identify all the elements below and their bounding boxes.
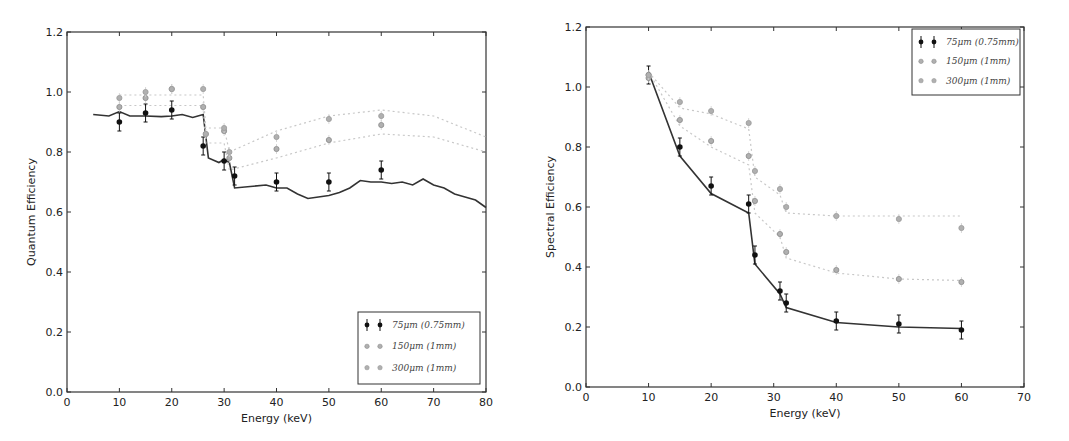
data-point bbox=[896, 321, 902, 327]
x-tick-label: 70 bbox=[1017, 391, 1031, 404]
y-tick-label: 0.6 bbox=[565, 201, 583, 214]
legend-entry: 150μm (1mm) bbox=[946, 56, 1011, 66]
y-tick-label: 0.0 bbox=[565, 381, 583, 394]
data-point bbox=[117, 104, 122, 109]
data-point bbox=[677, 99, 682, 104]
y-tick-label: 0.2 bbox=[46, 326, 64, 339]
y-tick-label: 1.2 bbox=[46, 26, 64, 39]
data-point bbox=[227, 149, 232, 154]
data-point bbox=[221, 158, 227, 164]
data-point bbox=[746, 153, 751, 158]
data-point bbox=[677, 144, 683, 150]
data-point bbox=[169, 107, 175, 113]
data-point bbox=[709, 138, 714, 143]
data-point bbox=[274, 179, 280, 185]
chart-panel-2: 0102030405060700.00.20.40.60.81.01.2Ener… bbox=[544, 21, 1031, 420]
y-tick-label: 0.4 bbox=[46, 266, 64, 279]
data-point bbox=[143, 89, 148, 94]
legend-entry: 75μm (0.75mm) bbox=[946, 37, 1019, 47]
x-tick-label: 20 bbox=[165, 396, 179, 409]
legend-entry: 75μm (0.75mm) bbox=[392, 320, 465, 330]
data-point bbox=[752, 252, 758, 258]
legend-entry: 300μm (1mm) bbox=[946, 76, 1011, 86]
x-tick-label: 30 bbox=[767, 391, 781, 404]
y-tick-label: 0.2 bbox=[565, 321, 583, 334]
data-point bbox=[746, 201, 752, 207]
figure: 010203040506070800.00.20.40.60.81.01.2En… bbox=[0, 0, 1069, 441]
x-tick-label: 40 bbox=[829, 391, 843, 404]
x-tick-label: 80 bbox=[479, 396, 493, 409]
data-point bbox=[834, 213, 839, 218]
data-point bbox=[708, 183, 714, 189]
data-point bbox=[959, 225, 964, 230]
x-axis-label: Energy (keV) bbox=[241, 412, 312, 425]
data-point bbox=[201, 104, 206, 109]
y-tick-label: 0.6 bbox=[46, 206, 64, 219]
chart-panel-1: 010203040506070800.00.20.40.60.81.01.2En… bbox=[25, 26, 493, 425]
legend-entry: 300μm (1mm) bbox=[392, 363, 457, 373]
x-tick-label: 60 bbox=[374, 396, 388, 409]
data-point bbox=[232, 173, 238, 179]
x-axis-label: Energy (keV) bbox=[770, 407, 841, 420]
y-tick-label: 0.8 bbox=[46, 146, 64, 159]
data-point bbox=[379, 113, 384, 118]
y-tick-label: 1.2 bbox=[565, 21, 583, 34]
legend: 75μm (0.75mm)150μm (1mm)300μm (1mm) bbox=[912, 29, 1020, 95]
x-tick-label: 50 bbox=[892, 391, 906, 404]
y-axis-label: Quantum Efficiency bbox=[25, 158, 38, 266]
data-point bbox=[203, 131, 208, 136]
data-point bbox=[783, 300, 789, 306]
data-point bbox=[378, 167, 384, 173]
x-tick-label: 0 bbox=[64, 396, 71, 409]
x-tick-label: 50 bbox=[322, 396, 336, 409]
x-tick-label: 0 bbox=[583, 391, 590, 404]
data-point bbox=[143, 110, 149, 116]
data-point bbox=[896, 276, 901, 281]
data-point bbox=[274, 134, 279, 139]
data-point bbox=[709, 108, 714, 113]
data-point bbox=[959, 279, 964, 284]
data-point bbox=[777, 231, 782, 236]
y-tick-label: 0.8 bbox=[565, 141, 583, 154]
x-tick-label: 10 bbox=[112, 396, 126, 409]
data-point bbox=[117, 95, 122, 100]
x-tick-label: 40 bbox=[270, 396, 284, 409]
x-tick-label: 70 bbox=[427, 396, 441, 409]
data-point bbox=[326, 179, 332, 185]
legend: 75μm (0.75mm)150μm (1mm)300μm (1mm) bbox=[358, 312, 480, 384]
data-point bbox=[201, 86, 206, 91]
data-point bbox=[896, 216, 901, 221]
data-point bbox=[646, 72, 651, 77]
data-point bbox=[959, 327, 965, 333]
x-tick-label: 10 bbox=[642, 391, 656, 404]
data-point bbox=[784, 204, 789, 209]
data-point bbox=[833, 318, 839, 324]
x-tick-label: 60 bbox=[954, 391, 968, 404]
data-point bbox=[326, 116, 331, 121]
y-tick-label: 0.0 bbox=[46, 386, 64, 399]
data-point bbox=[222, 125, 227, 130]
x-tick-label: 30 bbox=[217, 396, 231, 409]
y-tick-label: 1.0 bbox=[565, 81, 583, 94]
y-tick-label: 0.4 bbox=[565, 261, 583, 274]
data-point bbox=[677, 117, 682, 122]
y-axis-label: Spectral Efficiency bbox=[544, 156, 557, 258]
y-tick-label: 1.0 bbox=[46, 86, 64, 99]
data-point bbox=[784, 249, 789, 254]
data-point bbox=[777, 186, 782, 191]
data-point bbox=[746, 120, 751, 125]
data-point bbox=[200, 143, 206, 149]
data-point bbox=[777, 288, 783, 294]
data-point bbox=[274, 146, 279, 151]
data-point bbox=[379, 122, 384, 127]
legend-entry: 150μm (1mm) bbox=[392, 341, 457, 351]
data-point bbox=[834, 267, 839, 272]
data-point bbox=[326, 137, 331, 142]
data-point bbox=[117, 119, 123, 125]
x-tick-label: 20 bbox=[704, 391, 718, 404]
data-point bbox=[752, 198, 757, 203]
data-point bbox=[752, 168, 757, 173]
data-point bbox=[169, 86, 174, 91]
